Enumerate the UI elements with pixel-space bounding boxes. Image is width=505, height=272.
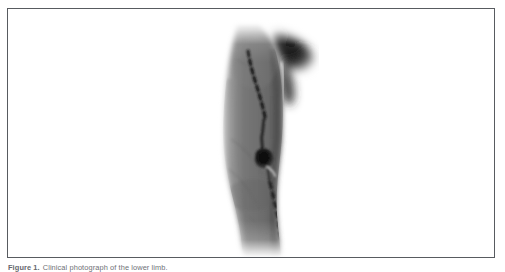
photo-edge-falloff bbox=[201, 19, 319, 258]
figure-frame bbox=[7, 8, 495, 258]
figure-caption-text: Clinical photograph of the lower limb. bbox=[43, 263, 168, 272]
clinical-photograph bbox=[8, 9, 494, 257]
figure-caption: Figure 1.Clinical photograph of the lowe… bbox=[8, 263, 488, 272]
figure-caption-label: Figure 1. bbox=[8, 263, 40, 272]
limb-photo-subject bbox=[201, 19, 319, 258]
